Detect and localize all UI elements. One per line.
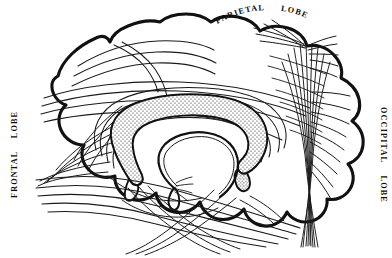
label-frontal-word-2: LOBE — [10, 111, 19, 138]
brain-illustration: PARIETAL LOBE FRONTAL LOBE OCCIPITAL LOB… — [0, 0, 392, 258]
label-occipital-lobe-text: OCCIPITAL LOBE — [379, 107, 388, 203]
label-occipital-lobe: OCCIPITAL LOBE — [379, 107, 388, 203]
label-frontal-lobe: FRONTAL LOBE — [10, 111, 19, 198]
label-frontal-lobe-text: FRONTAL LOBE — [10, 111, 19, 198]
brain-diagram-figure: PARIETAL LOBE FRONTAL LOBE OCCIPITAL LOB… — [0, 0, 392, 258]
label-frontal-word-1: FRONTAL — [10, 151, 19, 198]
label-occipital-word-2: LOBE — [379, 176, 388, 203]
label-occipital-word-1: OCCIPITAL — [379, 107, 388, 163]
